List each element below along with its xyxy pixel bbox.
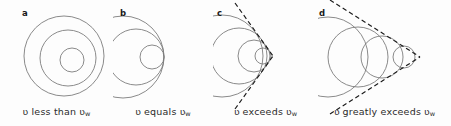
wave-speed-subscript: w bbox=[292, 111, 297, 119]
panel-a: a ʋ less than ʋw bbox=[0, 0, 113, 126]
wavefront-circle bbox=[113, 16, 164, 98]
panel-c-caption: ʋ exceeds ʋw bbox=[213, 107, 318, 118]
caption-text: exceeds bbox=[243, 106, 283, 117]
speed-symbol: ʋ bbox=[234, 106, 240, 117]
wavefront-circle bbox=[40, 30, 96, 86]
wave-speed-subscript: w bbox=[430, 111, 435, 119]
wavefront-circle bbox=[318, 17, 368, 97]
panel-letter-a: a bbox=[22, 9, 28, 18]
caption-text: less than bbox=[32, 106, 77, 117]
wavefront-circle bbox=[238, 40, 270, 72]
wavefront-circle bbox=[140, 45, 164, 69]
wave-speed-subscript: w bbox=[185, 111, 190, 119]
wavefront-circle bbox=[60, 48, 84, 72]
wavefront-circle bbox=[113, 29, 164, 85]
wavefront-circle bbox=[393, 46, 415, 68]
panel-letter-d: d bbox=[319, 9, 325, 18]
mach-cone-upper bbox=[330, 0, 420, 57]
panel-a-caption: ʋ less than ʋw bbox=[0, 107, 113, 118]
panel-d: d ʋ greatly exceeds ʋw bbox=[318, 0, 451, 126]
wavefront-circle bbox=[24, 16, 104, 96]
panel-c: c ʋ exceeds ʋw bbox=[213, 0, 318, 126]
speed-symbol: ʋ bbox=[334, 106, 340, 117]
caption-text: equals bbox=[144, 106, 177, 117]
mach-cone-upper bbox=[235, 3, 273, 56]
wave-speed-subscript: w bbox=[85, 111, 90, 119]
caption-text: greatly exceeds bbox=[343, 106, 421, 117]
panel-letter-c: c bbox=[217, 9, 222, 18]
panel-letter-b: b bbox=[120, 9, 126, 18]
panel-d-caption: ʋ greatly exceeds ʋw bbox=[318, 107, 451, 118]
panel-b-caption: ʋ equals ʋw bbox=[113, 107, 213, 118]
mach-cone-lower bbox=[235, 56, 273, 109]
panel-b: b ʋ equals ʋw bbox=[113, 0, 213, 126]
wavefront-figure: a ʋ less than ʋw b ʋ equals ʋw bbox=[0, 0, 451, 126]
